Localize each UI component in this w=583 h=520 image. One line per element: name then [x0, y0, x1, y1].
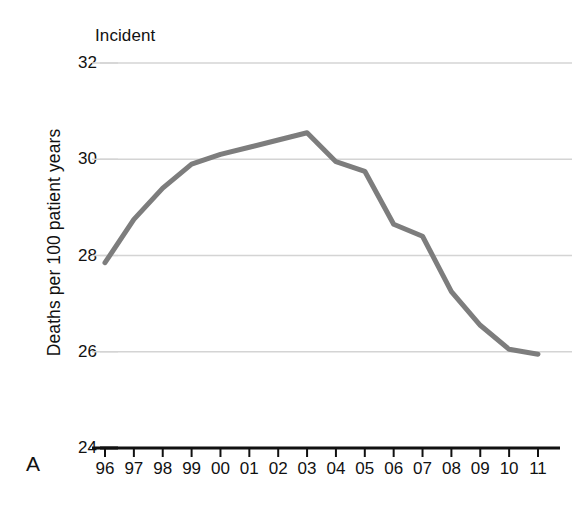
series-line-incident [105, 133, 538, 354]
x-tick-label-02: 02 [263, 460, 293, 477]
x-tick-label-09: 09 [465, 460, 495, 477]
chart-figure: Incident Deaths per 100 patient years 24… [0, 0, 583, 520]
x-tick-label-10: 10 [494, 460, 524, 477]
x-tick-label-00: 00 [205, 460, 235, 477]
plot-area [0, 0, 583, 520]
x-tick-label-11: 11 [523, 460, 553, 477]
x-tick-label-08: 08 [436, 460, 466, 477]
x-axis [92, 448, 560, 457]
x-axis-tick-labels: 96979899000102030405060708091011 [0, 460, 583, 490]
x-tick-label-99: 99 [177, 460, 207, 477]
data-series-line [105, 133, 538, 354]
x-tick-label-97: 97 [119, 460, 149, 477]
x-tick-label-01: 01 [234, 460, 264, 477]
x-tick-label-07: 07 [408, 460, 438, 477]
x-tick-label-05: 05 [350, 460, 380, 477]
x-tick-label-04: 04 [321, 460, 351, 477]
x-tick-label-06: 06 [379, 460, 409, 477]
panel-label: A [26, 452, 40, 476]
gridlines [92, 63, 572, 448]
x-tick-label-98: 98 [148, 460, 178, 477]
x-tick-label-03: 03 [292, 460, 322, 477]
x-tick-label-96: 96 [90, 460, 120, 477]
